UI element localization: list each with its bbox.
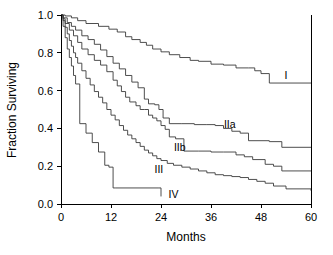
y-tick-label: 0.6 [38, 85, 53, 97]
survival-chart-figure: 01224364860 0.00.20.40.60.81.0 IIIaIIbII… [0, 0, 333, 255]
x-tick-label: 60 [305, 211, 317, 223]
y-tick-label: 0.0 [38, 198, 53, 210]
x-tick-label: 48 [255, 211, 267, 223]
series-label-iib: IIb [174, 141, 186, 153]
y-axis-title: Fraction Surviving [5, 62, 19, 158]
chart-svg: 01224364860 0.00.20.40.60.81.0 IIIaIIbII… [0, 0, 333, 255]
x-tick-label: 0 [58, 211, 64, 223]
y-tick-label: 1.0 [38, 9, 53, 21]
series-label-iv: IV [169, 188, 179, 200]
y-tick-label: 0.8 [38, 47, 53, 59]
y-tick-label: 0.2 [38, 160, 53, 172]
series-label-iia: IIa [224, 118, 236, 130]
x-axis-title: Months [166, 230, 205, 244]
series-label-iii: III [155, 163, 164, 175]
x-tick-label: 24 [155, 211, 167, 223]
x-tick-label: 12 [105, 211, 117, 223]
x-tick-label: 36 [205, 211, 217, 223]
series-label-i: I [285, 69, 288, 81]
y-tick-label: 0.4 [38, 122, 53, 134]
